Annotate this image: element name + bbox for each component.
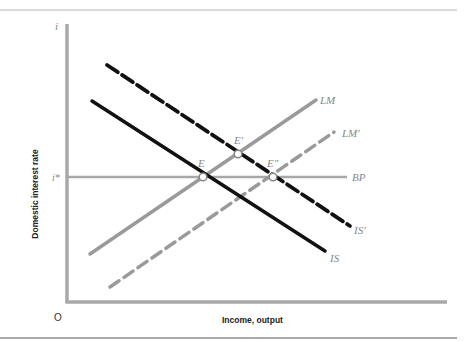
point-e-marker [199,173,207,181]
y-axis-title: Domestic interest rate [30,149,40,239]
point-e-prime-label: E′ [233,134,244,146]
point-e-double-prime-label: E″ [266,157,279,169]
x-axis-title: Income, output [222,315,283,325]
is-prime-label: IS′ [353,224,366,236]
lm-prime-label: LM′ [341,127,360,139]
y-axis-symbol: i [55,20,58,32]
point-e-double-prime-marker [269,173,277,181]
point-e-prime-marker [234,150,242,158]
is-lm-bp-diagram: E E′ E″ LM LM′ IS IS′ BP i i* O Domestic… [0,0,470,341]
origin-label: O [54,312,62,323]
lm-prime-curve [110,132,334,287]
bp-label: BP [352,171,366,183]
lm-label: LM [319,94,336,106]
is-label: IS [329,252,340,264]
point-e-label: E [197,157,205,169]
i-star-tick-label: i* [52,172,60,183]
